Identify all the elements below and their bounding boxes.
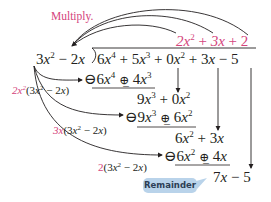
dividend: 6x4 + 5x3 + 0x2 + 3x − 5 <box>97 52 239 67</box>
divisor: 3x2 − 2x <box>36 52 85 67</box>
step1-multiplier-label: 2x2(3x2 − 2x) <box>12 85 69 96</box>
step2-multiplier-label: 3x(3x2 − 2x) <box>53 125 107 136</box>
step3-product: ⊖6x2 ⊕̲ 4x <box>164 149 227 165</box>
step3-multiplier-label: 2(3x2 − 2x) <box>98 162 147 173</box>
final-remainder: 7x − 5 <box>213 170 251 185</box>
quotient: 2x2 + 3x + 2 <box>176 34 248 49</box>
step2-product: ⊖9x3 ⊕̲ 6x2 <box>125 110 192 126</box>
polynomial-long-division-diagram: Multiply. 2x2 + 3x + 2 3x2 − 2x 6x4 + 5x… <box>0 0 271 202</box>
step1-product: ⊖6x4 ⊕̲ 4x3 <box>84 72 151 88</box>
step1-remainder: 9x3 + 0x2 <box>137 92 190 107</box>
multiply-label: Multiply. <box>51 10 93 22</box>
step2-remainder: 6x2 + 3x <box>175 131 224 146</box>
remainder-callout: Remainder <box>143 178 197 193</box>
